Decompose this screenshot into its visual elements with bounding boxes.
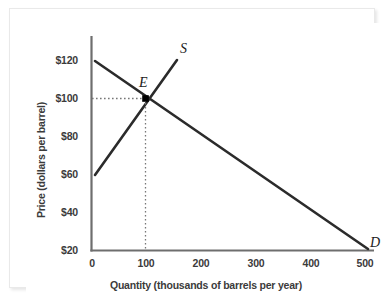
y-tick-label-80: $80: [22, 130, 78, 142]
supply-curve: [95, 60, 177, 175]
plot-area: $120 $100 $80 $60 $40 $20 0 100 200 300 …: [26, 23, 382, 293]
y-tick-label-60: $60: [22, 168, 78, 180]
x-tick-label-100: 100: [126, 257, 166, 269]
figure-root: $120 $100 $80 $60 $40 $20 0 100 200 300 …: [0, 0, 387, 303]
equilibrium-point-label: E: [139, 75, 148, 91]
x-axis-title: Quantity (thousands of barrels per year): [56, 279, 356, 291]
x-tick-label-200: 200: [181, 257, 221, 269]
x-tick-label-300: 300: [236, 257, 276, 269]
y-tick-label-20: $20: [22, 244, 78, 256]
y-axis-title: Price (dollars per barrel): [35, 86, 47, 234]
demand-curve: [95, 61, 368, 249]
supply-curve-label: S: [180, 41, 187, 57]
figure-plate: $120 $100 $80 $60 $40 $20 0 100 200 300 …: [9, 8, 375, 288]
x-tick-label-0: 0: [72, 257, 112, 269]
supply-demand-plot: [26, 23, 382, 293]
x-tick-label-400: 400: [291, 257, 331, 269]
equilibrium-marker: [142, 95, 149, 102]
y-tick-label-40: $40: [22, 206, 78, 218]
demand-curve-label: D: [370, 235, 380, 251]
x-tick-label-500: 500: [345, 257, 385, 269]
y-tick-label-100: $100: [22, 92, 78, 104]
y-tick-label-120: $120: [22, 54, 78, 66]
